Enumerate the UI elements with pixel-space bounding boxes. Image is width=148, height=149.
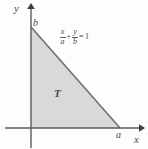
equation-plus-operator: + — [67, 33, 72, 41]
y-axis-label: y — [14, 3, 19, 14]
fraction-numerator-x: x — [60, 28, 66, 37]
fraction-y-over-b: y b — [72, 28, 78, 46]
line-equation-annotation: x a + y b = 1 — [59, 28, 89, 46]
fraction-denominator-a: a — [60, 37, 66, 47]
equation-equals-sign: = — [79, 33, 84, 41]
x-axis-arrowhead-icon — [139, 124, 145, 132]
region-label-T: T — [54, 88, 61, 99]
fraction-x-over-a: x a — [60, 28, 66, 46]
triangle-region-diagram: y x b a T x a + y b = 1 — [0, 0, 148, 149]
fraction-denominator-b: b — [72, 37, 78, 47]
x-axis-label: x — [134, 134, 139, 145]
y-axis-arrowhead-icon — [27, 3, 35, 9]
y-intercept-label-b: b — [33, 18, 38, 28]
diagram-canvas — [0, 0, 148, 149]
fraction-numerator-y: y — [72, 28, 78, 37]
equation-right-side: 1 — [85, 33, 89, 41]
x-intercept-label-a: a — [116, 130, 121, 140]
